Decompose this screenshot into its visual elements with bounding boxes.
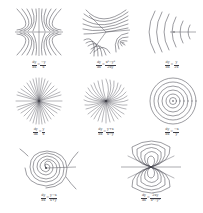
panel-dipole-field [118, 144, 184, 192]
panel-threefold-saddle [80, 6, 132, 58]
caption-panel-7: dy dx = y−x x+y [23, 194, 75, 202]
radial-node-dot [38, 100, 40, 102]
concentric-center-dot [172, 100, 174, 102]
panel-saddle-quadrupole [12, 6, 66, 58]
caption-5-rhs-fraction: y+x x−y [106, 128, 114, 136]
spiral-axis [46, 167, 76, 168]
panel-concentric-center [148, 76, 198, 126]
caption-3-rhs-fraction: y 2x [174, 61, 179, 69]
saddle-diagram [12, 6, 66, 58]
panel-radial-star-node [13, 76, 65, 126]
dipole-center-dot [150, 166, 152, 168]
panel-parabolic-arcs [146, 6, 198, 58]
panel-spiral-pinwheel [81, 76, 131, 126]
spiral-curves [20, 149, 78, 189]
caption-1-rhs-fraction: −y x [40, 61, 46, 69]
caption-panel-3: dy dx = y 2x [146, 61, 198, 69]
threefold-diagram [80, 6, 132, 58]
panel-spiral-focus [16, 144, 82, 192]
radial-diagram [13, 76, 65, 126]
caption-panel-2: dy dx = x²−y² 2xy [80, 61, 132, 69]
caption-2-rhs-fraction: x²−y² 2xy [105, 61, 116, 69]
parabolic-diagram [146, 6, 198, 58]
parabolic-vertex-dot [173, 31, 174, 32]
field-line-figure: dy dx = −y x dy dx = x²−y² 2xy dy dx = y… [0, 0, 203, 213]
pinwheel-center-dot [105, 100, 107, 102]
caption-panel-1: dy dx = −y x [13, 61, 65, 69]
dipole-diagram [118, 144, 184, 192]
spiral-diagram [16, 144, 82, 192]
caption-8-rhs-fraction: 2xy x²−y² [150, 194, 161, 202]
dipole-loops-upper [132, 141, 170, 167]
pinwheel-diagram [81, 76, 131, 126]
caption-6-rhs-fraction: −x y [173, 128, 179, 136]
concentric-diagram [148, 76, 198, 126]
caption-panel-6: dy dx = −x y [146, 128, 198, 136]
caption-4-rhs-fraction: y x [42, 128, 45, 136]
spiral-focus-dot [45, 167, 47, 169]
caption-7-rhs-fraction: y−x x+y [49, 194, 57, 202]
caption-panel-8: dy dx = 2xy x²−y² [125, 194, 177, 202]
caption-panel-4: dy dx = y x [13, 128, 65, 136]
dipole-loops-lower [132, 167, 170, 193]
caption-panel-5: dy dx = y+x x−y [80, 128, 132, 136]
